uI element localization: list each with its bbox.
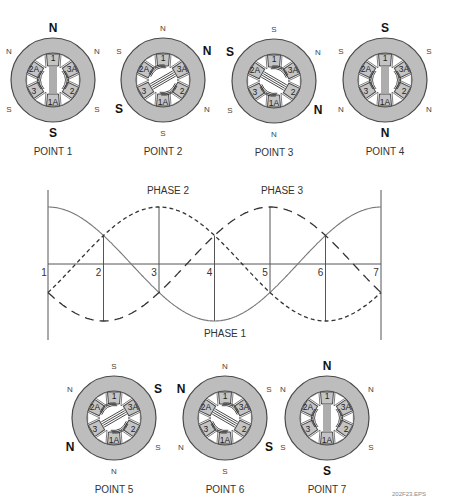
pole-bottom-label: S bbox=[49, 126, 57, 140]
stator-pole-label: 1A bbox=[220, 435, 231, 445]
stator-pole-label: 1 bbox=[161, 53, 166, 63]
pole-top-label: S bbox=[381, 21, 389, 35]
stator-pole-label: 2 bbox=[180, 86, 185, 96]
point-tick-label: 1 bbox=[41, 267, 47, 278]
stator-pole-label: 2 bbox=[344, 424, 349, 434]
pole-top-label: S bbox=[271, 25, 276, 34]
pole-ur-label: S bbox=[426, 47, 431, 56]
pole-ur-label: S bbox=[266, 385, 271, 394]
stator-pole-label: 1 bbox=[325, 391, 330, 401]
pole-ur-label: N bbox=[94, 47, 100, 56]
pole-ul-label: N bbox=[67, 385, 73, 394]
motor-diagrams: 13A21A32A13A21A32A13A21A32A13A21A32A13A2… bbox=[11, 38, 427, 460]
pole-bottom-label: S bbox=[160, 129, 165, 138]
pole-lr-label: S bbox=[265, 440, 273, 454]
stator-pole-label: 3A bbox=[341, 402, 352, 412]
pole-top-label: N bbox=[160, 24, 166, 33]
file-label: 202F23.EPS bbox=[392, 491, 426, 497]
motor-point-3: 13A21A32A bbox=[232, 39, 316, 123]
point-label: POINT 2 bbox=[144, 146, 183, 157]
phase-label: PHASE 1 bbox=[204, 328, 246, 339]
pole-ll-label: S bbox=[115, 102, 123, 116]
stator-pole-label: 2 bbox=[242, 424, 247, 434]
pole-top-label: S bbox=[111, 362, 116, 371]
point-label: POINT 7 bbox=[308, 484, 347, 495]
stator-pole-label: 1 bbox=[51, 53, 56, 63]
stator-pole-label: 3 bbox=[32, 86, 37, 96]
pole-bottom-label: N bbox=[381, 126, 390, 140]
stator-pole-label: 2A bbox=[250, 65, 261, 75]
motor-point-6: 13A21A32A bbox=[183, 376, 267, 460]
stator-pole-label: 2 bbox=[402, 86, 407, 96]
point-label: POINT 5 bbox=[95, 484, 134, 495]
phase-label: PHASE 3 bbox=[261, 185, 303, 196]
point-label: POINT 3 bbox=[255, 147, 294, 158]
motor-point-5: 13A21A32A bbox=[72, 376, 156, 460]
stator-pole-label: 1 bbox=[383, 53, 388, 63]
three-phase-motor-diagram: 13A21A32A13A21A32A13A21A32A13A21A32A13A2… bbox=[0, 0, 451, 502]
pole-ul-label: S bbox=[338, 47, 343, 56]
motor-point-1: 13A21A32A bbox=[11, 38, 95, 122]
stator-pole-label: 3 bbox=[204, 424, 209, 434]
stator-pole-label: 2A bbox=[361, 64, 372, 74]
pole-ul-label: N bbox=[6, 47, 12, 56]
point-tick-label: 5 bbox=[262, 267, 268, 278]
point-tick-label: 2 bbox=[96, 267, 102, 278]
pole-ll-label: S bbox=[227, 106, 232, 115]
stator-pole-label: 3 bbox=[306, 424, 311, 434]
point-label: POINT 6 bbox=[206, 484, 245, 495]
pole-lr-label: N bbox=[426, 105, 432, 114]
stator-pole-label: 1A bbox=[158, 97, 169, 107]
motor-point-4: 13A21A32A bbox=[343, 38, 427, 122]
point-label: POINT 4 bbox=[366, 146, 405, 157]
stator-pole-label: 3 bbox=[142, 86, 147, 96]
phase-label: PHASE 2 bbox=[147, 185, 189, 196]
pole-lr-label: N bbox=[314, 103, 323, 117]
pole-ll-label: S bbox=[280, 443, 285, 452]
pole-ur-label: N bbox=[315, 48, 321, 57]
stator-pole-label: 3A bbox=[288, 65, 299, 75]
pole-top-label: N bbox=[49, 21, 58, 35]
stator-pole-label: 3A bbox=[239, 402, 250, 412]
pole-ur-label: N bbox=[368, 385, 374, 394]
point-tick-label: 3 bbox=[151, 267, 157, 278]
stator-pole-label: 1 bbox=[112, 391, 117, 401]
stator-pole-label: 3 bbox=[364, 86, 369, 96]
stator-pole-label: 3A bbox=[128, 402, 139, 412]
phase-waveform-graph bbox=[48, 190, 381, 340]
pole-ul-label: S bbox=[116, 47, 121, 56]
point-label: POINT 1 bbox=[34, 146, 73, 157]
stator-pole-label: 1A bbox=[109, 435, 120, 445]
stator-pole-label: 2 bbox=[291, 87, 296, 97]
pole-ul-label: N bbox=[280, 385, 286, 394]
pole-ll-label: N bbox=[66, 440, 75, 454]
stator-pole-label: 3 bbox=[253, 87, 258, 97]
stator-pole-label: 2A bbox=[29, 64, 40, 74]
stator-pole-label: 2 bbox=[70, 86, 75, 96]
stator-pole-label: 1A bbox=[48, 97, 59, 107]
stator-pole-label: 2A bbox=[201, 402, 212, 412]
pole-lr-label: S bbox=[94, 105, 99, 114]
stator-pole-label: 1A bbox=[269, 98, 280, 108]
stator-pole-label: 2A bbox=[90, 402, 101, 412]
pole-bottom-label: S bbox=[323, 464, 331, 478]
stator-pole-label: 1A bbox=[380, 97, 391, 107]
pole-top-label: N bbox=[222, 362, 228, 371]
stator-pole-label: 2A bbox=[139, 64, 150, 74]
pole-ll-label: N bbox=[338, 105, 344, 114]
stator-pole-label: 2A bbox=[303, 402, 314, 412]
point-tick-label: 7 bbox=[373, 267, 379, 278]
motor-point-7: 13A21A32A bbox=[285, 376, 369, 460]
stator-pole-label: 3A bbox=[67, 64, 78, 74]
stator-pole-label: 2 bbox=[131, 424, 136, 434]
point-tick-label: 4 bbox=[207, 267, 213, 278]
pole-bottom-label: S bbox=[222, 467, 227, 476]
pole-bottom-label: N bbox=[111, 467, 117, 476]
pole-lr-label: S bbox=[368, 443, 373, 452]
pole-ll-label: S bbox=[6, 105, 11, 114]
pole-ul-label: N bbox=[177, 382, 186, 396]
stator-pole-label: 3 bbox=[93, 424, 98, 434]
pole-ur-label: N bbox=[203, 44, 212, 58]
stator-pole-label: 3A bbox=[177, 64, 188, 74]
pole-ur-label: S bbox=[154, 382, 162, 396]
